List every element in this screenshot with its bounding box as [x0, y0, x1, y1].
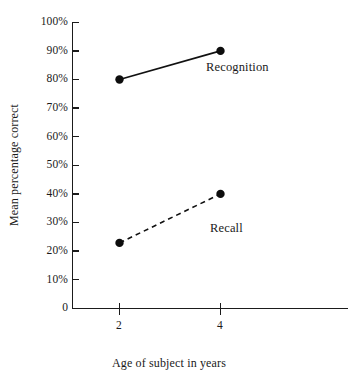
- data-point-recall-age2: [115, 239, 123, 247]
- y-tick-label-20: 20%: [12, 245, 68, 257]
- y-tick-label-80: 80%: [12, 73, 68, 85]
- series-label-recognition: Recognition: [206, 60, 269, 75]
- y-tick-label-10: 10%: [12, 274, 68, 286]
- line-chart: 100% 90% 80% 70% 60% 50% 40% 30% 20% 10%…: [0, 0, 354, 383]
- data-point-recognition-age2: [115, 75, 123, 83]
- x-axis-title: Age of subject in years: [112, 356, 226, 371]
- x-tick-label-4: 4: [217, 320, 223, 332]
- data-point-recall-age4: [216, 190, 224, 198]
- y-axis-ticks: [73, 22, 79, 279]
- data-point-recognition-age4: [216, 47, 224, 55]
- y-axis-title: Mean percentage correct: [7, 104, 22, 226]
- x-tick-label-2: 2: [116, 320, 122, 332]
- y-tick-label-90: 90%: [12, 45, 68, 57]
- series-label-recall: Recall: [210, 221, 243, 236]
- series-recall: [115, 190, 224, 247]
- y-tick-label-0: 0: [12, 302, 68, 314]
- y-tick-label-100: 100%: [12, 16, 68, 28]
